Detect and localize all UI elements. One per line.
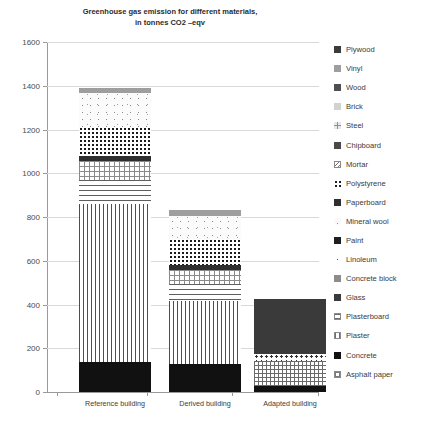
legend-item-asphaltpaper[interactable]: Asphalt paper: [334, 365, 446, 384]
legend-item-label: Plaster: [346, 331, 370, 340]
legend-swatch-icon: [334, 371, 341, 378]
x-axis: [47, 392, 319, 393]
bar-segment-vinyl[interactable]: [169, 210, 241, 215]
y-tick-label: 1000: [22, 169, 40, 178]
y-tick: [43, 130, 47, 131]
legend-item-label: Steel: [346, 121, 363, 130]
y-tick-label: 200: [27, 344, 40, 353]
y-tick-label: 0: [36, 388, 40, 397]
legend-item-label: Linoleum: [346, 255, 377, 264]
legend-swatch-icon: [334, 180, 341, 187]
legend-item-label: Brick: [346, 102, 363, 111]
legend-item-concreteblock[interactable]: Concrete block: [334, 269, 446, 288]
legend-item-mortar[interactable]: Mortar: [334, 155, 446, 174]
bar-segment-paperboard[interactable]: [169, 265, 241, 270]
legend-swatch-icon: [334, 313, 341, 320]
legend-item-label: Polystyrene: [346, 179, 386, 188]
legend-item-chipboard[interactable]: Chipboard: [334, 135, 446, 154]
legend-item-linoleum[interactable]: Linoleum: [334, 250, 446, 269]
legend-item-label: Chipboard: [346, 141, 381, 150]
legend-swatch-icon: [334, 332, 341, 339]
x-tick: [318, 392, 319, 396]
legend-item-concrete[interactable]: Concrete: [334, 346, 446, 365]
bar-segment-linoleum[interactable]: [254, 354, 326, 361]
chart-container: Greenhouse gas emission for different ma…: [0, 0, 447, 435]
legend-swatch-icon: [334, 46, 341, 53]
y-tick: [43, 348, 47, 349]
legend-swatch-icon: [334, 218, 341, 225]
legend-swatch-icon: [334, 122, 341, 129]
x-tick: [232, 392, 233, 396]
legend-swatch-icon: [334, 103, 341, 110]
legend-swatch-icon: [334, 161, 341, 168]
chart-title-line-1: Greenhouse gas emission for different ma…: [40, 6, 300, 17]
legend-item-label: Mineral wool: [346, 217, 389, 226]
bar-segment-plasterboard[interactable]: [79, 180, 151, 204]
bar-segment-plaster[interactable]: [79, 204, 151, 362]
legend-swatch-icon: [334, 352, 341, 359]
bar-segment-polystyrene[interactable]: [79, 127, 151, 155]
legend-item-paint[interactable]: Paint: [334, 231, 446, 250]
bar-adapted-building[interactable]: [254, 299, 326, 392]
legend-item-label: Concrete: [346, 351, 377, 360]
legend-item-label: Concrete block: [346, 274, 397, 283]
x-tick: [147, 392, 148, 396]
legend-item-plywood[interactable]: Plywood: [334, 40, 446, 59]
x-tick-label: Adapted building: [263, 399, 317, 408]
chart-title: Greenhouse gas emission for different ma…: [40, 6, 300, 28]
bar-segment-mineralwool[interactable]: [169, 216, 241, 239]
legend-item-glass[interactable]: Glass: [334, 288, 446, 307]
legend-item-paperboard[interactable]: Paperboard: [334, 193, 446, 212]
legend-item-plaster[interactable]: Plaster: [334, 326, 446, 345]
bar-segment-mineralwool[interactable]: [79, 93, 151, 127]
bar-segment-asphaltpaper[interactable]: [254, 361, 326, 386]
y-tick: [43, 86, 47, 87]
bar-segment-vinyl[interactable]: [79, 88, 151, 93]
y-tick: [43, 42, 47, 43]
legend-item-brick[interactable]: Brick: [334, 97, 446, 116]
x-tick-label: Derived building: [179, 399, 231, 408]
legend-item-label: Wood: [346, 83, 366, 92]
legend-item-plasterboard[interactable]: Plasterboard: [334, 307, 446, 326]
legend-item-label: Paperboard: [346, 198, 386, 207]
y-tick-label: 1400: [22, 81, 40, 90]
x-tick: [57, 392, 58, 396]
legend-item-wood[interactable]: Wood: [334, 78, 446, 97]
legend-swatch-icon: [334, 256, 341, 263]
bar-segment-polystyrene[interactable]: [169, 239, 241, 265]
legend-swatch-icon: [334, 275, 341, 282]
bar-reference-building[interactable]: [79, 88, 151, 392]
legend-swatch-icon: [334, 199, 341, 206]
bar-derived-building[interactable]: [169, 210, 241, 392]
legend-item-mineralwool[interactable]: Mineral wool: [334, 212, 446, 231]
legend-item-steel[interactable]: Steel: [334, 116, 446, 135]
bar-segment-concrete[interactable]: [254, 386, 326, 392]
legend-swatch-icon: [334, 237, 341, 244]
bar-segment-plaster[interactable]: [169, 301, 241, 364]
legend-swatch-icon: [334, 65, 341, 72]
legend-item-label: Mortar: [346, 160, 368, 169]
legend-item-label: Vinyl: [346, 64, 362, 73]
bar-segment-concrete[interactable]: [79, 362, 151, 392]
y-tick-label: 600: [27, 256, 40, 265]
bar-segment-concrete[interactable]: [169, 364, 241, 392]
legend-item-label: Asphalt paper: [346, 370, 393, 379]
legend-item-label: Glass: [346, 293, 365, 302]
bar-segment-glass[interactable]: [254, 299, 326, 354]
y-tick: [43, 173, 47, 174]
bar-segment-mortar[interactable]: [169, 270, 241, 284]
chart-title-line-2: in tonnes CO2 –eqv: [40, 17, 300, 28]
bar-segment-plasterboard[interactable]: [169, 284, 241, 300]
legend-swatch-icon: [334, 142, 341, 149]
y-tick: [43, 392, 47, 393]
legend-item-polystyrene[interactable]: Polystyrene: [334, 174, 446, 193]
y-tick-label: 1600: [22, 38, 40, 47]
bar-segment-paperboard[interactable]: [79, 156, 151, 161]
legend-item-vinyl[interactable]: Vinyl: [334, 59, 446, 78]
legend-swatch-icon: [334, 84, 341, 91]
y-tick: [43, 217, 47, 218]
gridline: [47, 42, 319, 43]
y-tick-label: 800: [27, 213, 40, 222]
y-tick: [43, 261, 47, 262]
bar-segment-mortar[interactable]: [79, 161, 151, 181]
